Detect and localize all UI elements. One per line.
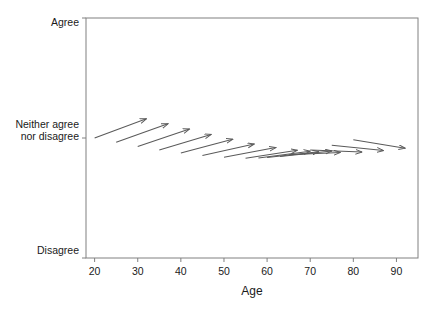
arrow-series — [95, 119, 405, 158]
x-axis-tick-labels: 2030405060708090 — [89, 265, 403, 277]
plot-frame — [86, 18, 418, 258]
x-tick-label: 80 — [347, 265, 359, 277]
x-tick-label: 40 — [175, 265, 187, 277]
y-tick-label-disagree: Disagree — [37, 244, 79, 256]
x-tick-label: 30 — [132, 265, 144, 277]
x-tick-label: 50 — [218, 265, 230, 277]
y-tick-label-neutral-line2: nor disagree — [21, 130, 80, 142]
arrow-vector-chart: 2030405060708090 Agree Neither agree nor… — [0, 0, 435, 309]
chart-container: 2030405060708090 Agree Neither agree nor… — [0, 0, 435, 309]
arrow-vector — [95, 119, 147, 138]
arrow-vector — [332, 145, 384, 150]
x-axis-ticks — [95, 258, 397, 262]
y-tick-label-agree: Agree — [51, 16, 79, 28]
y-tick-label-neutral-line1: Neither agree — [15, 118, 79, 130]
x-tick-label: 20 — [89, 265, 101, 277]
y-axis-ticks — [82, 18, 86, 258]
x-tick-label: 70 — [304, 265, 316, 277]
x-tick-label: 90 — [391, 265, 403, 277]
x-axis-title: Age — [241, 284, 263, 298]
arrow-vector — [353, 140, 405, 148]
x-tick-label: 60 — [261, 265, 273, 277]
